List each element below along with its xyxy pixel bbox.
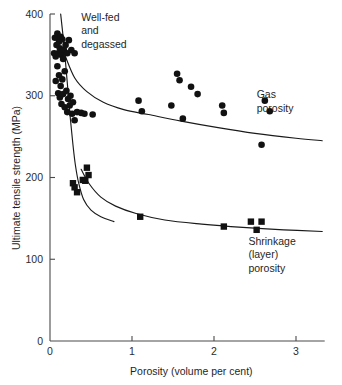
annotation-line: degassed: [81, 38, 127, 50]
data-point-circle: [67, 92, 74, 99]
chart-svg: 01230100200300400Porosity (volume per ce…: [0, 0, 342, 385]
y-tick-label-400: 400: [25, 8, 43, 20]
trend-curve-gas-porosity-trend: [65, 55, 322, 141]
data-point-circle: [52, 78, 59, 85]
data-point-circle: [81, 110, 88, 117]
x-tick-label-0: 0: [47, 345, 53, 357]
data-point-circle: [180, 115, 187, 122]
data-point-square: [221, 223, 227, 229]
data-point-circle: [61, 68, 68, 75]
data-point-circle: [51, 50, 58, 57]
data-point-circle: [70, 99, 77, 106]
data-point-square: [82, 178, 88, 184]
porosity-tensile-strength-chart: 01230100200300400Porosity (volume per ce…: [0, 0, 342, 385]
data-point-circle: [60, 56, 67, 63]
data-point-circle: [57, 83, 64, 90]
annotation-well-fed: Well-fedanddegassed: [81, 11, 127, 50]
data-point-circle: [71, 50, 78, 57]
data-point-square: [258, 218, 264, 224]
y-tick-label-100: 100: [25, 253, 43, 265]
data-point-circle: [221, 110, 228, 117]
data-point-circle: [66, 37, 73, 44]
annotation-line: and: [81, 24, 99, 36]
data-point-circle: [89, 111, 96, 118]
data-point-square: [253, 227, 259, 233]
data-point-circle: [219, 102, 226, 109]
annotation-line: porosity: [248, 262, 286, 274]
data-point-circle: [258, 142, 265, 149]
annotation-line: Gas: [257, 88, 276, 100]
x-axis-title: Porosity (volume per cent): [130, 365, 253, 377]
data-point-circle: [168, 102, 175, 109]
y-tick-label-0: 0: [37, 335, 43, 347]
data-point-square: [85, 172, 91, 178]
data-point-circle: [59, 76, 66, 83]
data-point-square: [84, 164, 90, 170]
x-tick-label-1: 1: [129, 345, 135, 357]
data-point-circle: [135, 97, 142, 104]
data-point-square: [137, 214, 143, 220]
data-point-circle: [188, 83, 195, 90]
data-point-square: [248, 218, 254, 224]
annotation-line: Well-fed: [81, 11, 119, 23]
y-tick-label-300: 300: [25, 89, 43, 101]
data-point-circle: [174, 70, 181, 77]
annotation-line: (layer): [248, 248, 278, 260]
annotation-gas-porosity: Gasporosity: [257, 88, 295, 114]
annotation-line: Shrinkage: [248, 235, 295, 247]
data-point-circle: [59, 36, 66, 43]
trend-curve-shrinkage-porosity-trend: [81, 169, 322, 231]
y-tick-label-200: 200: [25, 171, 43, 183]
series-shrinkage-layer-porosity: [70, 164, 265, 233]
annotation-line: porosity: [257, 102, 295, 114]
x-tick-label-3: 3: [293, 345, 299, 357]
x-tick-label-2: 2: [211, 345, 217, 357]
y-axis-title: Ultimate tensile strength (MPa): [10, 106, 22, 250]
data-point-circle: [139, 108, 146, 115]
data-point-circle: [194, 91, 201, 98]
data-point-circle: [176, 77, 183, 84]
data-point-square: [74, 189, 80, 195]
data-point-circle: [54, 63, 61, 70]
annotation-shrinkage-porosity: Shrinkage(layer)porosity: [248, 235, 295, 274]
data-point-circle: [71, 117, 78, 124]
